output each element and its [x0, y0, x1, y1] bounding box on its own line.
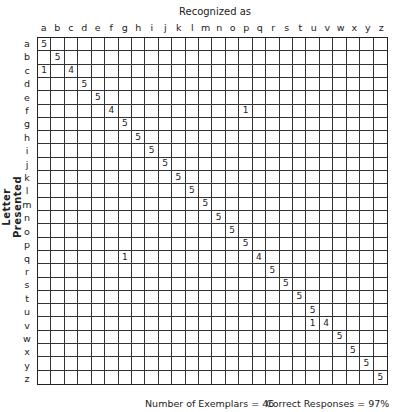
matrix-cell	[293, 171, 306, 184]
matrix-cell	[145, 371, 158, 384]
matrix-cell	[266, 304, 279, 317]
matrix-cell	[320, 291, 333, 304]
matrix-cell	[333, 264, 346, 277]
matrix-cell	[105, 278, 118, 291]
matrix-cell	[119, 238, 132, 251]
matrix-cell	[212, 278, 225, 291]
matrix-cell	[38, 264, 51, 277]
matrix-cell	[239, 278, 252, 291]
matrix-cell	[119, 51, 132, 64]
matrix-cell	[65, 251, 78, 264]
matrix-cell	[347, 91, 360, 104]
matrix-cell	[333, 184, 346, 197]
matrix-cell	[92, 51, 105, 64]
row-label: r	[20, 265, 34, 278]
matrix-cell	[186, 78, 199, 91]
matrix-cell	[38, 291, 51, 304]
matrix-cell	[374, 304, 387, 317]
matrix-cell	[92, 65, 105, 78]
matrix-cell	[65, 184, 78, 197]
matrix-cell	[186, 158, 199, 171]
matrix-cell	[360, 158, 373, 171]
matrix-cell: 5	[333, 331, 346, 344]
matrix-cell	[239, 371, 252, 384]
matrix-cell	[306, 144, 319, 157]
matrix-cell	[293, 251, 306, 264]
matrix-cell	[347, 211, 360, 224]
matrix-cell	[374, 317, 387, 330]
matrix-cell	[159, 251, 172, 264]
matrix-cell	[78, 105, 91, 118]
matrix-cell	[293, 357, 306, 370]
matrix-cell	[239, 184, 252, 197]
matrix-cell	[306, 91, 319, 104]
matrix-cell	[119, 131, 132, 144]
matrix-cell	[280, 144, 293, 157]
matrix-cell: 1	[119, 251, 132, 264]
matrix-cell	[105, 144, 118, 157]
matrix-cell	[239, 144, 252, 157]
matrix-cell	[172, 91, 185, 104]
matrix-cell	[119, 304, 132, 317]
matrix-cell	[105, 51, 118, 64]
matrix-cell	[347, 118, 360, 131]
matrix-cell	[239, 304, 252, 317]
matrix-cell	[65, 78, 78, 91]
matrix-cell	[212, 78, 225, 91]
matrix-cell	[105, 38, 118, 51]
matrix-cell	[159, 78, 172, 91]
matrix-cell	[132, 144, 145, 157]
matrix-cell	[172, 105, 185, 118]
row-label: a	[20, 37, 34, 50]
row-label: g	[20, 117, 34, 130]
matrix-cell	[266, 278, 279, 291]
matrix-cell	[293, 371, 306, 384]
matrix-cell	[51, 171, 64, 184]
matrix-cell	[172, 38, 185, 51]
matrix-cell	[293, 238, 306, 251]
confusion-matrix: 551455415555555555145555145555	[37, 37, 388, 385]
matrix-cell	[132, 238, 145, 251]
matrix-cell	[38, 331, 51, 344]
matrix-cell	[280, 238, 293, 251]
matrix-cell	[360, 131, 373, 144]
matrix-cell	[333, 131, 346, 144]
matrix-cell	[159, 38, 172, 51]
matrix-cell	[212, 371, 225, 384]
matrix-cell	[172, 317, 185, 330]
matrix-cell	[105, 344, 118, 357]
matrix-cell	[293, 158, 306, 171]
matrix-cell	[226, 357, 239, 370]
matrix-cell	[360, 304, 373, 317]
matrix-cell	[360, 65, 373, 78]
matrix-cell	[306, 344, 319, 357]
matrix-cell	[78, 357, 91, 370]
matrix-cell: 5	[172, 171, 185, 184]
matrix-cell	[105, 317, 118, 330]
matrix-cell	[132, 291, 145, 304]
matrix-cell	[92, 238, 105, 251]
matrix-cell	[145, 65, 158, 78]
matrix-cell	[172, 331, 185, 344]
matrix-cell	[78, 211, 91, 224]
matrix-cell	[333, 65, 346, 78]
matrix-cell	[105, 65, 118, 78]
matrix-cell	[159, 357, 172, 370]
matrix-cell	[280, 158, 293, 171]
matrix-cell	[239, 78, 252, 91]
matrix-cell	[78, 224, 91, 237]
matrix-cell	[306, 78, 319, 91]
matrix-cell	[360, 278, 373, 291]
matrix-cell	[159, 371, 172, 384]
matrix-cell	[199, 331, 212, 344]
matrix-cell	[293, 304, 306, 317]
matrix-cell	[253, 278, 266, 291]
matrix-cell	[212, 291, 225, 304]
matrix-cell	[145, 51, 158, 64]
matrix-cell: 5	[239, 238, 252, 251]
matrix-cell	[239, 344, 252, 357]
matrix-cell	[199, 224, 212, 237]
matrix-cell	[320, 198, 333, 211]
matrix-cell	[92, 171, 105, 184]
matrix-cell	[159, 118, 172, 131]
